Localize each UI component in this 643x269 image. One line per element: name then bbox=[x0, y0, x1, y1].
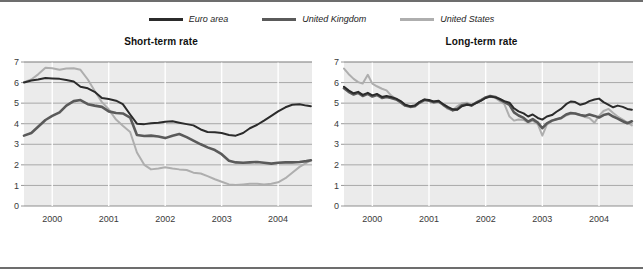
y-tick-label: 7 bbox=[334, 57, 339, 67]
y-tick-label: 0 bbox=[14, 201, 19, 211]
x-tick-label: 2004 bbox=[589, 214, 609, 224]
plot-svg-long: 0123456720002001200220032004 bbox=[322, 56, 641, 236]
y-tick-label: 3 bbox=[14, 139, 19, 149]
x-tick-label: 2000 bbox=[42, 214, 62, 224]
line-swatch-icon bbox=[149, 18, 183, 21]
legend-label: Euro area bbox=[189, 14, 229, 24]
plot-area-short: 0123456720002001200220032004 bbox=[2, 56, 320, 236]
plot-svg-short: 0123456720002001200220032004 bbox=[2, 56, 320, 236]
y-tick-label: 4 bbox=[334, 119, 339, 129]
x-tick-label: 2004 bbox=[268, 214, 288, 224]
y-tick-label: 2 bbox=[14, 160, 19, 170]
legend-label: United States bbox=[440, 14, 494, 24]
legend-item-united-kingdom: United Kingdom bbox=[262, 14, 366, 24]
x-tick-label: 2001 bbox=[419, 214, 439, 224]
line-swatch-icon bbox=[262, 18, 296, 21]
panel-title-short: Short-term rate bbox=[2, 34, 320, 47]
y-tick-label: 5 bbox=[14, 98, 19, 108]
y-tick-label: 2 bbox=[334, 160, 339, 170]
y-tick-label: 0 bbox=[334, 201, 339, 211]
x-tick-label: 2002 bbox=[155, 214, 175, 224]
legend-label: United Kingdom bbox=[302, 14, 366, 24]
panel-short-term-rate: Short-term rate 012345672000200120022003… bbox=[2, 34, 320, 264]
plot-area-long: 0123456720002001200220032004 bbox=[322, 56, 641, 236]
x-tick-label: 2001 bbox=[99, 214, 119, 224]
x-tick-label: 2003 bbox=[212, 214, 232, 224]
line-swatch-icon bbox=[400, 18, 434, 21]
y-tick-label: 3 bbox=[334, 139, 339, 149]
figure-top-rule bbox=[0, 0, 643, 2]
panel-title-long: Long-term rate bbox=[322, 34, 641, 47]
x-tick-label: 2000 bbox=[362, 214, 382, 224]
legend-item-euro-area: Euro area bbox=[149, 14, 229, 24]
chart-legend: Euro areaUnited KingdomUnited States bbox=[0, 10, 643, 28]
y-tick-label: 4 bbox=[14, 119, 19, 129]
legend-item-united-states: United States bbox=[400, 14, 494, 24]
panel-long-term-rate: Long-term rate 0123456720002001200220032… bbox=[322, 34, 641, 264]
y-tick-label: 5 bbox=[334, 98, 339, 108]
x-tick-label: 2003 bbox=[532, 214, 552, 224]
y-tick-label: 6 bbox=[14, 78, 19, 88]
y-tick-label: 6 bbox=[334, 78, 339, 88]
y-tick-label: 1 bbox=[14, 181, 19, 191]
x-tick-label: 2002 bbox=[476, 214, 496, 224]
y-tick-label: 7 bbox=[14, 57, 19, 67]
y-tick-label: 1 bbox=[334, 181, 339, 191]
